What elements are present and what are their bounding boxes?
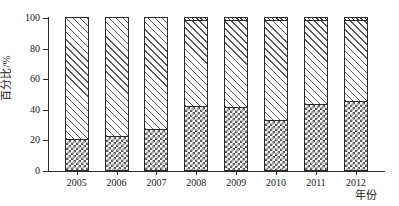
y-tick-mark	[43, 79, 48, 80]
x-tick-mark	[196, 171, 197, 175]
bar-segment-series-1-crosshatch	[264, 120, 288, 171]
stacked-bar-chart: 百分比/% 年份 020406080100 200520062007200820…	[0, 0, 399, 206]
bar-segment-series-2-diagonal-hatch	[264, 20, 288, 120]
bar-2010	[264, 18, 288, 171]
y-tick-label: 20	[30, 135, 40, 145]
x-tick-label: 2007	[146, 177, 166, 188]
bar-segment-series-1-crosshatch	[65, 139, 89, 171]
bar-segment-series-1-crosshatch	[224, 107, 248, 171]
bar-segment-series-2-diagonal-hatch	[144, 17, 168, 130]
bar-segment-series-1-crosshatch	[344, 101, 368, 171]
x-tick-mark	[276, 171, 277, 175]
bar-segment-series-3-top-cap	[224, 17, 248, 21]
bar-2007	[144, 18, 168, 171]
bar-segment-series-2-diagonal-hatch	[105, 17, 129, 137]
y-tick-mark	[43, 140, 48, 141]
bar-2011	[304, 18, 328, 171]
y-tick-label: 60	[30, 74, 40, 84]
bar-segment-series-3-top-cap	[264, 17, 288, 21]
bar-2012	[344, 18, 368, 171]
bar-segment-series-3-top-cap	[304, 17, 328, 21]
y-axis-title: 百分比/%	[0, 55, 13, 100]
bar-segment-series-2-diagonal-hatch	[65, 17, 89, 140]
bar-segment-series-1-crosshatch	[184, 106, 208, 171]
bar-2006	[105, 18, 129, 171]
x-axis-title: 年份	[355, 186, 377, 202]
bar-2005	[65, 18, 89, 171]
bar-segment-series-2-diagonal-hatch	[344, 20, 368, 102]
plot-area: 020406080100 200520062007200820092010201…	[48, 17, 385, 172]
x-tick-mark	[236, 171, 237, 175]
x-tick-label: 2011	[306, 177, 326, 188]
y-tick-mark	[43, 49, 48, 50]
y-tick-mark	[43, 171, 48, 172]
x-tick-mark	[77, 171, 78, 175]
y-tick-label: 0	[35, 166, 40, 176]
y-tick-label: 40	[30, 105, 40, 115]
y-tick-mark	[43, 110, 48, 111]
y-tick-label: 80	[30, 44, 40, 54]
bar-2009	[224, 18, 248, 171]
x-axis-line	[48, 171, 385, 172]
x-tick-label: 2005	[67, 177, 87, 188]
x-tick-label: 2009	[226, 177, 246, 188]
x-tick-mark	[117, 171, 118, 175]
bar-segment-series-2-diagonal-hatch	[304, 20, 328, 105]
x-tick-label: 2008	[186, 177, 206, 188]
x-tick-label: 2006	[107, 177, 127, 188]
bar-segment-series-2-diagonal-hatch	[184, 20, 208, 107]
bar-segment-series-2-diagonal-hatch	[224, 20, 248, 108]
x-tick-mark	[356, 171, 357, 175]
bar-segment-series-3-top-cap	[344, 17, 368, 21]
x-tick-label: 2010	[266, 177, 286, 188]
bar-segment-series-1-crosshatch	[304, 104, 328, 171]
x-tick-mark	[316, 171, 317, 175]
bar-segment-series-1-crosshatch	[144, 129, 168, 171]
bar-2008	[184, 18, 208, 171]
y-tick-label: 100	[25, 13, 40, 23]
bar-segment-series-3-top-cap	[184, 17, 208, 21]
bar-segment-series-1-crosshatch	[105, 136, 129, 171]
x-tick-label: 2012	[346, 177, 366, 188]
y-tick-mark	[43, 18, 48, 19]
x-tick-mark	[156, 171, 157, 175]
y-axis-line	[48, 17, 49, 172]
